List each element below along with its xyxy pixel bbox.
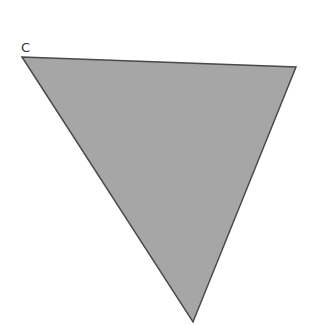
triangle-shape <box>22 57 296 322</box>
vertex-label-c: C <box>21 41 30 54</box>
triangle-figure <box>0 0 316 325</box>
